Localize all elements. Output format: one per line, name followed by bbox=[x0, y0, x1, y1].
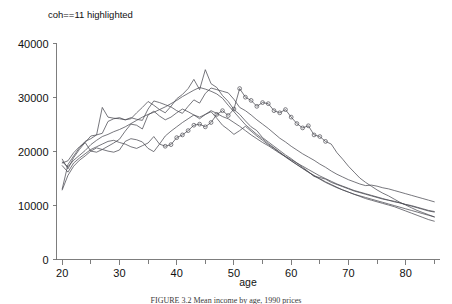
y-axis-ticks bbox=[53, 44, 57, 260]
x-axis-title: age bbox=[239, 276, 257, 288]
y-tick-label: 40000 bbox=[18, 38, 49, 50]
x-tick-label: 30 bbox=[113, 267, 125, 279]
series-line bbox=[62, 112, 434, 221]
y-tick-label: 30000 bbox=[18, 92, 49, 104]
line-chart: coh==11 highlighted 01000020000300004000… bbox=[0, 0, 452, 304]
y-tick-label: 10000 bbox=[18, 200, 49, 212]
chart-title: coh==11 highlighted bbox=[48, 9, 133, 20]
x-tick-label: 50 bbox=[228, 267, 240, 279]
series-group bbox=[62, 70, 434, 222]
x-tick-label: 80 bbox=[400, 267, 412, 279]
x-tick-label: 70 bbox=[342, 267, 354, 279]
series-line bbox=[62, 88, 434, 202]
x-tick-label: 20 bbox=[56, 267, 68, 279]
figure-caption: FIGURE 3.2 Mean income by age, 1990 pric… bbox=[151, 296, 302, 304]
figure-container: coh==11 highlighted 01000020000300004000… bbox=[0, 0, 452, 304]
x-tick-label: 40 bbox=[171, 267, 183, 279]
x-axis-ticks bbox=[62, 260, 434, 265]
x-tick-label: 60 bbox=[285, 267, 297, 279]
x-axis-tick-labels: 20304050607080 bbox=[56, 267, 412, 279]
highlight-markers bbox=[163, 87, 327, 149]
y-tick-label: 0 bbox=[42, 254, 48, 266]
y-tick-label: 20000 bbox=[18, 146, 49, 158]
y-axis-tick-labels: 010000200003000040000 bbox=[18, 38, 49, 266]
